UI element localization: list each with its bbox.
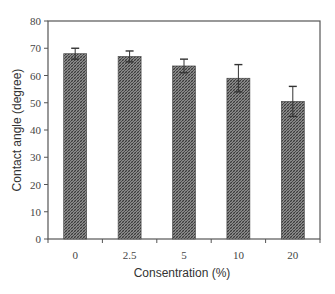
bar-group	[173, 59, 196, 239]
y-tick-label: 80	[30, 15, 42, 27]
x-tick-label: 5	[181, 249, 187, 261]
y-tick-label: 30	[30, 151, 42, 163]
y-tick-label: 10	[30, 206, 42, 218]
y-axis: 01020304050607080	[30, 15, 48, 245]
x-tick-label: 2.5	[123, 249, 137, 261]
bar-group	[118, 51, 141, 239]
bar-group	[64, 48, 87, 239]
bar-group	[281, 86, 304, 239]
x-tick-label: 10	[233, 249, 245, 261]
x-axis: 02.551020	[48, 239, 320, 261]
y-axis-title: Contact angle (degree)	[10, 69, 24, 192]
y-tick-label: 40	[30, 124, 42, 136]
x-tick-label: 20	[287, 249, 299, 261]
bar	[281, 101, 304, 239]
x-axis-title: Consentration (%)	[134, 266, 231, 280]
y-tick-label: 70	[30, 42, 42, 54]
x-tick-label: 0	[72, 249, 78, 261]
y-tick-label: 50	[30, 97, 42, 109]
bar-group	[227, 65, 250, 239]
bars	[64, 48, 305, 239]
y-tick-label: 60	[30, 70, 42, 82]
bar	[173, 66, 196, 239]
bar	[64, 54, 87, 239]
bar	[118, 56, 141, 239]
y-tick-label: 0	[36, 233, 42, 245]
bar	[227, 78, 250, 239]
bar-chart: 01020304050607080 02.551020 Consentratio…	[0, 0, 335, 294]
y-tick-label: 20	[30, 179, 42, 191]
